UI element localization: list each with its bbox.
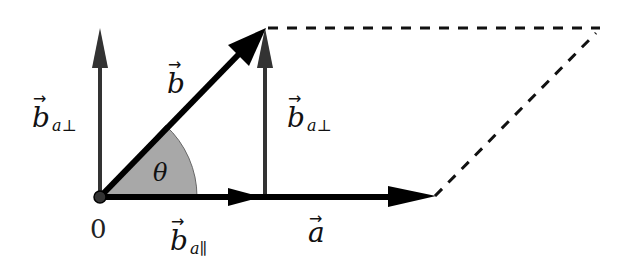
origin-point xyxy=(94,191,106,203)
svg-text:a∥: a∥ xyxy=(190,239,207,258)
svg-text:b: b xyxy=(287,101,305,134)
vector-b-perp-right xyxy=(257,28,273,197)
svg-text:a: a xyxy=(308,216,325,249)
dashed-right-edge xyxy=(435,33,596,196)
label-b: b → xyxy=(167,55,185,100)
vector-b-perp-left xyxy=(92,28,108,197)
label-b-perp-left: → b a⊥ xyxy=(32,89,77,135)
label-b-perp-right: → b a⊥ xyxy=(287,89,332,135)
label-b-parallel: → b a∥ xyxy=(170,212,207,258)
vector-b-parallel xyxy=(228,188,262,206)
label-a: → a xyxy=(308,209,325,249)
svg-text:b: b xyxy=(32,101,50,134)
origin-label: 0 xyxy=(90,214,107,244)
vector-projection-diagram: 0 b → → b a⊥ → b a⊥ → b a∥ → a θ xyxy=(0,0,625,275)
svg-text:b: b xyxy=(170,224,188,257)
label-theta: θ xyxy=(153,159,168,187)
svg-text:a⊥: a⊥ xyxy=(307,116,332,135)
svg-text:a⊥: a⊥ xyxy=(52,116,77,135)
svg-text:→: → xyxy=(168,55,181,74)
